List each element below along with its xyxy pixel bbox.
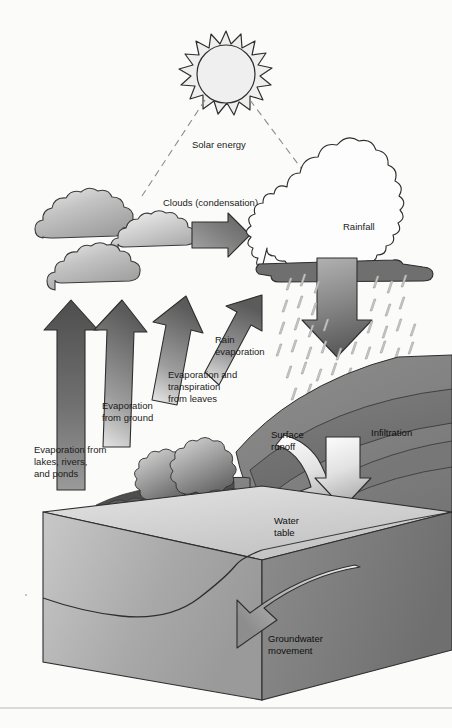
- label-rainfall: Rainfall: [343, 221, 375, 232]
- label-evaporation-ground-2: from ground: [102, 412, 153, 423]
- label-solar-energy: Solar energy: [192, 139, 246, 150]
- label-evaporation-lakes-1: Evaporation from: [34, 444, 106, 455]
- label-evapotranspiration-2: transpiration: [168, 381, 220, 392]
- label-rain-evaporation-2: evaporation: [215, 346, 265, 357]
- label-water-table-1: Water: [274, 515, 299, 526]
- label-water-table-2: table: [274, 527, 295, 538]
- label-groundwater-2: movement: [268, 645, 313, 656]
- label-surface-runoff-2: runoff: [271, 441, 295, 452]
- label-surface-runoff-1: Surface: [271, 429, 304, 440]
- label-groundwater-1: Groundwater: [268, 633, 323, 644]
- sun-disc: [197, 45, 255, 103]
- water-cycle-diagram: Solar energy Clouds (condensation) Rainf…: [0, 0, 452, 728]
- label-evapotranspiration-1: Evaporation and: [168, 369, 237, 380]
- margin-speck: [25, 594, 27, 596]
- label-evaporation-ground-1: Evaporation: [102, 400, 153, 411]
- label-rain-evaporation-1: Rain: [215, 334, 235, 345]
- label-evaporation-lakes-3: and ponds: [34, 468, 79, 479]
- label-clouds-condensation: Clouds (condensation): [163, 197, 258, 208]
- label-evapotranspiration-3: from leaves: [168, 393, 217, 404]
- label-evaporation-lakes-2: lakes, rivers,: [34, 456, 87, 467]
- water-cycle-svg: Solar energy Clouds (condensation) Rainf…: [0, 0, 452, 728]
- label-infiltration: Infiltration: [371, 427, 412, 438]
